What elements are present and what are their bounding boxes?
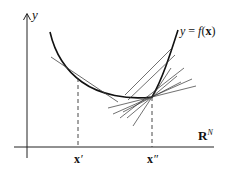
function-label-eq: = [185,24,198,38]
x-double-prime-label-mark: ″ [153,152,158,166]
y-axis-label: y [32,8,38,21]
x-double-prime-label: x″ [147,153,158,165]
function-label: y = f(x) [180,25,215,37]
function-label-close: ) [211,24,215,38]
tangent-line-x-prime [51,57,118,102]
space-label-sup: N [207,128,212,137]
convex-function-diagram: y y = f(x) RN x′ x″ [0,0,234,172]
y-axis [24,14,31,159]
x-prime-label: x′ [74,153,83,165]
space-label-r: R [198,128,207,143]
space-label: RN [198,129,213,142]
x-prime-label-mark: ′ [80,152,83,166]
